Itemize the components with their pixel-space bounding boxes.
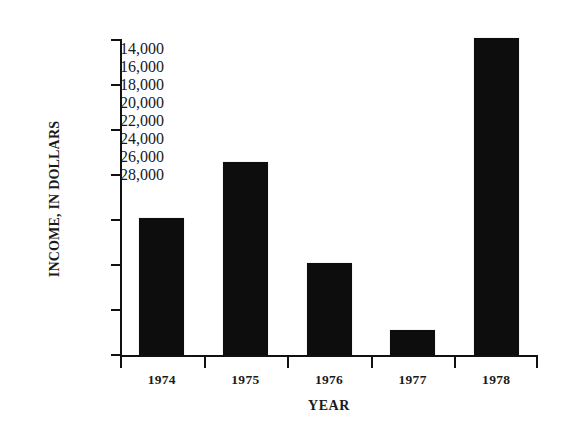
x-axis-tick-label: 1977 (371, 372, 455, 388)
y-axis-tick (111, 174, 121, 176)
y-axis-tick (111, 39, 121, 41)
x-axis-tick (371, 357, 373, 368)
y-axis-tick (111, 129, 121, 131)
x-axis-tick-label: 1975 (204, 372, 288, 388)
y-axis-tick (111, 84, 121, 86)
y-axis-title: INCOME, IN DOLLARS (44, 43, 66, 355)
x-axis-tick-label: 1976 (287, 372, 371, 388)
plot-area: 14,00016,00018,00020,00022,00024,00026,0… (120, 40, 538, 355)
x-axis-tick (204, 357, 206, 368)
bar (474, 38, 519, 355)
y-axis-tick (111, 264, 121, 266)
x-axis-title: YEAR (120, 398, 538, 414)
y-axis-tick (111, 219, 121, 221)
x-axis-tick-label: 1974 (120, 372, 204, 388)
x-axis-tick (287, 357, 289, 368)
x-axis-tick (536, 357, 538, 368)
x-axis-tick (454, 357, 456, 368)
x-axis-line (120, 355, 538, 357)
bar-chart-figure: INCOME, IN DOLLARS YEAR 14,00016,00018,0… (0, 0, 573, 441)
x-axis-tick-label: 1978 (454, 372, 538, 388)
x-axis-tick (120, 357, 122, 368)
bar (307, 263, 352, 355)
y-axis-tick (111, 309, 121, 311)
bar (139, 218, 184, 355)
y-axis-tick (111, 354, 121, 356)
bar (223, 162, 268, 356)
bar (390, 330, 435, 355)
